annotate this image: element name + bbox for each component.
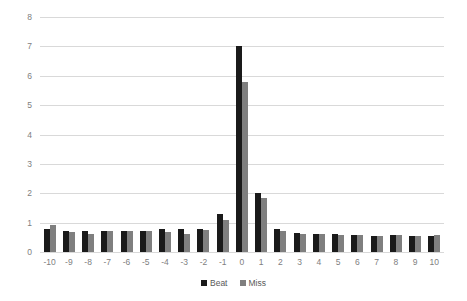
- x-tick-label--7: -7: [98, 254, 117, 270]
- x-tick-label--1: -1: [213, 254, 232, 270]
- bar-miss-2: [280, 231, 286, 252]
- x-tick-label--6: -6: [117, 254, 136, 270]
- bar-group: [40, 17, 59, 252]
- bar-miss-9: [415, 236, 421, 252]
- bar-group: [213, 17, 232, 252]
- bar-miss--5: [146, 231, 152, 252]
- y-tick-label-8: 8: [27, 13, 32, 22]
- bar-miss--10: [50, 225, 56, 252]
- y-tick-label-7: 7: [27, 42, 32, 51]
- x-tick-label-8: 8: [386, 254, 405, 270]
- x-tick-label-5: 5: [329, 254, 348, 270]
- bar-miss--1: [223, 220, 229, 252]
- x-tick-label--10: -10: [40, 254, 59, 270]
- x-tick-label-6: 6: [348, 254, 367, 270]
- chart-legend: BeatMiss: [0, 276, 467, 290]
- bar-group: [309, 17, 328, 252]
- x-tick-label--4: -4: [155, 254, 174, 270]
- x-tick-label--2: -2: [194, 254, 213, 270]
- x-tick-label--9: -9: [59, 254, 78, 270]
- x-tick-label-3: 3: [290, 254, 309, 270]
- bar-group: [232, 17, 251, 252]
- bar-miss--6: [127, 231, 133, 252]
- bar-group: [271, 17, 290, 252]
- bar-group: [98, 17, 117, 252]
- y-tick-label-3: 3: [27, 160, 32, 169]
- y-tick-label-1: 1: [27, 218, 32, 227]
- bar-miss--8: [88, 234, 94, 252]
- bar-miss-5: [338, 235, 344, 252]
- bar-miss--7: [107, 231, 113, 252]
- legend-swatch-icon: [240, 280, 246, 286]
- x-tick-label-0: 0: [232, 254, 251, 270]
- y-tick-label-6: 6: [27, 72, 32, 81]
- gridline-0: [40, 252, 444, 253]
- bar-group: [386, 17, 405, 252]
- x-tick-label--8: -8: [78, 254, 97, 270]
- x-tick-label-10: 10: [425, 254, 444, 270]
- bar-miss-3: [300, 234, 306, 252]
- bar-miss--9: [69, 232, 75, 252]
- x-axis: -10-9-8-7-6-5-4-3-2-1012345678910: [40, 254, 444, 270]
- x-tick-label-7: 7: [367, 254, 386, 270]
- bar-group: [348, 17, 367, 252]
- bar-miss--3: [184, 234, 190, 252]
- bar-group: [405, 17, 424, 252]
- bar-group: [136, 17, 155, 252]
- legend-item-miss[interactable]: Miss: [240, 279, 266, 288]
- y-tick-label-0: 0: [27, 248, 32, 257]
- legend-swatch-icon: [201, 280, 207, 286]
- bar-group: [425, 17, 444, 252]
- bar-miss-8: [396, 235, 402, 252]
- x-tick-label-1: 1: [252, 254, 271, 270]
- bar-miss--4: [165, 232, 171, 252]
- y-tick-label-2: 2: [27, 189, 32, 198]
- bar-group: [252, 17, 271, 252]
- bar-group: [59, 17, 78, 252]
- bar-miss-0: [242, 82, 248, 252]
- legend-label: Beat: [210, 279, 228, 288]
- x-tick-label-4: 4: [309, 254, 328, 270]
- bar-miss-4: [319, 234, 325, 252]
- legend-label: Miss: [249, 279, 266, 288]
- bar-miss-10: [434, 235, 440, 252]
- bar-group: [194, 17, 213, 252]
- y-tick-label-5: 5: [27, 101, 32, 110]
- bar-miss-6: [357, 235, 363, 252]
- bar-group: [290, 17, 309, 252]
- y-axis: 012345678: [0, 17, 40, 252]
- bar-chart: 012345678 -10-9-8-7-6-5-4-3-2-1012345678…: [0, 0, 467, 301]
- x-tick-label--3: -3: [175, 254, 194, 270]
- x-tick-label-2: 2: [271, 254, 290, 270]
- bar-miss-7: [377, 236, 383, 252]
- bar-group: [117, 17, 136, 252]
- bar-group: [78, 17, 97, 252]
- legend-item-beat[interactable]: Beat: [201, 279, 228, 288]
- bar-group: [367, 17, 386, 252]
- bar-group: [175, 17, 194, 252]
- bars-layer: [40, 17, 444, 252]
- bar-miss-1: [261, 198, 267, 252]
- bar-group: [329, 17, 348, 252]
- x-tick-label--5: -5: [136, 254, 155, 270]
- bar-miss--2: [203, 230, 209, 252]
- x-tick-label-9: 9: [405, 254, 424, 270]
- bar-group: [155, 17, 174, 252]
- y-tick-label-4: 4: [27, 130, 32, 139]
